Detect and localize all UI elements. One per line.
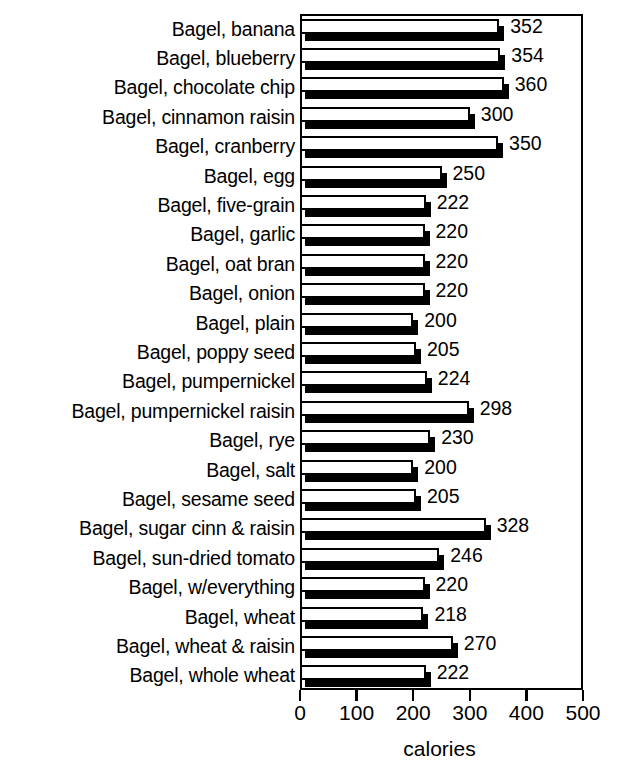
category-label: Bagel, poppy seed bbox=[137, 343, 295, 363]
bar-face bbox=[300, 460, 413, 475]
bar-value-label: 328 bbox=[497, 516, 530, 536]
bar-face bbox=[300, 254, 425, 269]
bar bbox=[300, 489, 421, 511]
bar-face bbox=[300, 342, 416, 357]
x-axis-title: calories bbox=[0, 738, 617, 759]
x-axis-tick bbox=[525, 690, 528, 701]
x-axis-tick-label: 100 bbox=[339, 702, 374, 723]
bar-value-label: 220 bbox=[436, 222, 469, 242]
bar bbox=[300, 77, 509, 99]
bar bbox=[300, 19, 504, 41]
category-label: Bagel, cranberry bbox=[155, 137, 295, 157]
bar bbox=[300, 430, 435, 452]
bar bbox=[300, 607, 428, 629]
category-label: Bagel, sun-dried tomato bbox=[93, 549, 295, 569]
bar-value-label: 300 bbox=[481, 105, 514, 125]
category-label: Bagel, wheat & raisin bbox=[116, 637, 295, 657]
bar bbox=[300, 636, 458, 658]
bar-face bbox=[300, 607, 423, 622]
category-label: Bagel, oat bran bbox=[166, 255, 295, 275]
x-axis-tick bbox=[412, 690, 415, 701]
bar-face bbox=[300, 401, 469, 416]
bar-value-label: 222 bbox=[437, 663, 470, 683]
bar-face bbox=[300, 195, 426, 210]
bar-value-label: 205 bbox=[427, 340, 460, 360]
x-axis: 0100200300400500 bbox=[300, 690, 583, 691]
category-label: Bagel, rye bbox=[209, 431, 295, 451]
category-label: Bagel, blueberry bbox=[156, 49, 295, 69]
bar-face bbox=[300, 548, 439, 563]
bar-face bbox=[300, 430, 430, 445]
bar bbox=[300, 195, 431, 217]
category-label: Bagel, onion bbox=[189, 284, 295, 304]
x-axis-tick-label: 0 bbox=[294, 702, 306, 723]
bar-value-label: 350 bbox=[509, 134, 542, 154]
bar-face bbox=[300, 313, 413, 328]
bar bbox=[300, 313, 418, 335]
category-label: Bagel, garlic bbox=[190, 225, 295, 245]
bar-face bbox=[300, 518, 486, 533]
bar-value-label: 220 bbox=[436, 281, 469, 301]
bar-value-label: 220 bbox=[436, 575, 469, 595]
x-axis-tick-label: 200 bbox=[396, 702, 431, 723]
bar-value-label: 360 bbox=[515, 75, 548, 95]
x-axis-tick-label: 400 bbox=[509, 702, 544, 723]
bar bbox=[300, 577, 430, 599]
category-label: Bagel, five-grain bbox=[157, 196, 295, 216]
x-axis-tick bbox=[355, 690, 358, 701]
bar-value-label: 352 bbox=[510, 17, 543, 37]
bar-value-label: 246 bbox=[450, 546, 483, 566]
bar bbox=[300, 460, 418, 482]
x-axis-tick bbox=[469, 690, 472, 701]
bar bbox=[300, 665, 431, 687]
bar-face bbox=[300, 19, 499, 34]
bar-value-label: 222 bbox=[437, 193, 470, 213]
bar-value-label: 230 bbox=[441, 428, 474, 448]
category-label: Bagel, chocolate chip bbox=[114, 78, 295, 98]
category-label: Bagel, pumpernickel bbox=[122, 372, 295, 392]
bar bbox=[300, 224, 430, 246]
x-axis-tick-label: 500 bbox=[565, 702, 600, 723]
category-label: Bagel, egg bbox=[204, 167, 295, 187]
category-label: Bagel, sugar cinn & raisin bbox=[79, 519, 295, 539]
bar bbox=[300, 107, 475, 129]
bar bbox=[300, 136, 503, 158]
bar bbox=[300, 342, 421, 364]
bar-face bbox=[300, 136, 498, 151]
bar-face bbox=[300, 77, 504, 92]
bar-face bbox=[300, 665, 426, 680]
category-label: Bagel, w/everything bbox=[129, 578, 295, 598]
bar-value-label: 200 bbox=[424, 458, 457, 478]
bar-face bbox=[300, 577, 425, 592]
bar-value-label: 218 bbox=[434, 605, 467, 625]
bar-value-label: 298 bbox=[480, 399, 513, 419]
x-axis-title-text: calories bbox=[403, 738, 475, 759]
bar-face bbox=[300, 636, 453, 651]
bar-value-label: 205 bbox=[427, 487, 460, 507]
bar bbox=[300, 48, 505, 70]
bar-face bbox=[300, 283, 425, 298]
bar bbox=[300, 518, 491, 540]
bar-face bbox=[300, 371, 427, 386]
category-label: Bagel, salt bbox=[206, 461, 295, 481]
bar bbox=[300, 283, 430, 305]
category-label: Bagel, pumpernickel raisin bbox=[72, 402, 296, 422]
category-label: Bagel, whole wheat bbox=[129, 666, 295, 686]
bar bbox=[300, 371, 432, 393]
category-label: Bagel, banana bbox=[172, 20, 295, 40]
bar-face bbox=[300, 107, 470, 122]
x-axis-tick bbox=[582, 690, 585, 701]
category-label: Bagel, cinnamon raisin bbox=[102, 108, 295, 128]
category-label: Bagel, sesame seed bbox=[122, 490, 295, 510]
bar-value-label: 354 bbox=[511, 46, 544, 66]
bar bbox=[300, 254, 430, 276]
category-label: Bagel, wheat bbox=[185, 608, 295, 628]
bar-value-label: 250 bbox=[453, 164, 486, 184]
bar-face bbox=[300, 224, 425, 239]
bar-face bbox=[300, 166, 442, 181]
category-label: Bagel, plain bbox=[195, 314, 295, 334]
bar-chart: Bagel, bananaBagel, blueberryBagel, choc… bbox=[0, 0, 617, 771]
bar bbox=[300, 548, 444, 570]
bar-value-label: 200 bbox=[424, 311, 457, 331]
bar-value-label: 220 bbox=[436, 252, 469, 272]
